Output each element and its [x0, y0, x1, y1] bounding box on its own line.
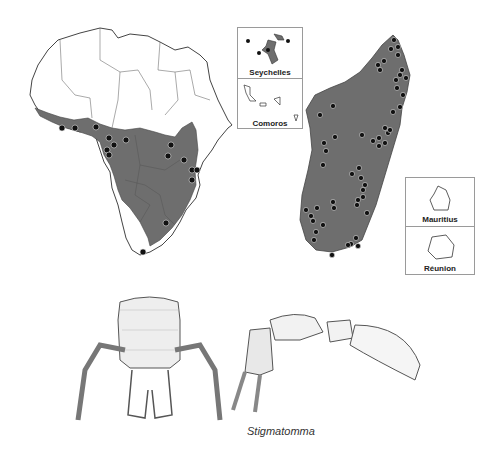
inset-mauritius: Mauritius: [406, 178, 474, 226]
inset-seychelles-comoros: Seychelles Comoros: [237, 27, 303, 129]
inset-comoros: Comoros: [238, 78, 302, 129]
mauritius-label: Mauritius: [406, 215, 474, 224]
reunion-label: Réunion: [406, 264, 474, 273]
inset-seychelles: Seychelles: [238, 28, 302, 78]
comoros-label: Comoros: [238, 119, 302, 128]
ant-lateral-illustration: [215, 300, 475, 420]
inset-mauritius-reunion: Mauritius Réunion: [405, 177, 475, 275]
seychelles-label: Seychelles: [238, 68, 302, 77]
inset-reunion: Réunion: [406, 226, 474, 275]
ant-head-illustration: [60, 290, 240, 430]
madagascar-record-points: [303, 37, 408, 257]
genus-caption: Stigmatomma: [247, 425, 315, 437]
